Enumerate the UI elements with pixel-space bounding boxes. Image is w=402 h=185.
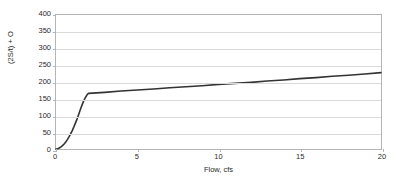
y-tick-label: 300 — [20, 44, 51, 52]
x-tick-label: 0 — [53, 152, 57, 162]
chart-figure: 050100150200250300350400 (2S/t) + O 0510… — [0, 0, 402, 185]
y-tick-mark — [53, 15, 56, 16]
y-axis-title-text: (2S/t) + O — [6, 50, 15, 64]
gridline — [56, 32, 381, 33]
gridline — [56, 83, 381, 84]
gridline — [56, 117, 381, 118]
x-tick-label: 5 — [135, 152, 139, 162]
gridline — [56, 49, 381, 50]
y-tick-mark — [53, 100, 56, 101]
y-tick-label: 100 — [20, 112, 51, 120]
y-tick-mark — [53, 32, 56, 33]
gridline — [56, 100, 381, 101]
y-tick-mark — [53, 134, 56, 135]
x-tick-label: 20 — [378, 152, 386, 162]
x-tick-label: 10 — [214, 152, 222, 162]
x-axis-tick-labels: 05101520 — [55, 152, 382, 164]
y-tick-mark — [53, 66, 56, 67]
y-tick-label: 350 — [20, 27, 51, 35]
series-line — [56, 15, 381, 149]
x-axis-title: Flow, cfs — [55, 165, 382, 174]
plot-area — [55, 14, 382, 150]
x-tick-label: 15 — [296, 152, 304, 162]
y-tick-label: 0 — [20, 146, 51, 154]
gridline — [56, 66, 381, 67]
y-tick-mark — [53, 49, 56, 50]
y-axis-tick-labels: 050100150200250300350400 — [20, 14, 51, 150]
gridline — [56, 134, 381, 135]
y-tick-label: 200 — [20, 78, 51, 86]
y-tick-label: 50 — [20, 129, 51, 137]
y-axis-title: (2S/t) + O — [6, 50, 15, 64]
y-tick-label: 150 — [20, 95, 51, 103]
y-tick-mark — [53, 83, 56, 84]
y-tick-mark — [53, 117, 56, 118]
y-tick-label: 400 — [20, 10, 51, 18]
y-tick-label: 250 — [20, 61, 51, 69]
